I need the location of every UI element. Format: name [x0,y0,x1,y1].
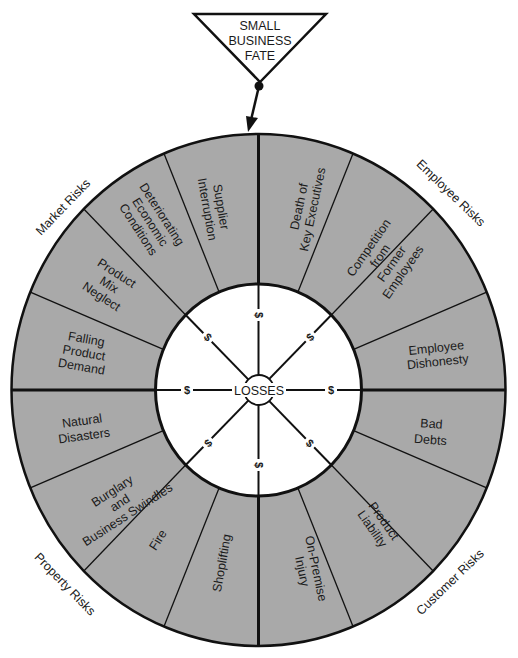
svg-text:Debts: Debts [414,432,448,448]
losses-label: LOSSES [234,384,284,398]
title-line-3: FATE [245,49,275,63]
dollar-icon: $ [253,462,265,468]
arrow-icon [246,82,264,133]
title-triangle: SMALL BUSINESS FATE [194,14,326,82]
dollar-icon: $ [184,384,190,396]
svg-text:Bad: Bad [420,416,443,432]
title-line-1: SMALL [240,19,281,33]
title-line-2: BUSINESS [228,34,291,48]
dollar-icon: $ [328,384,334,396]
risk-wheel-diagram: SMALL BUSINESS FATE $ $ $ $ $ $ $ $ [0,0,518,658]
dollar-icon: $ [253,312,265,318]
